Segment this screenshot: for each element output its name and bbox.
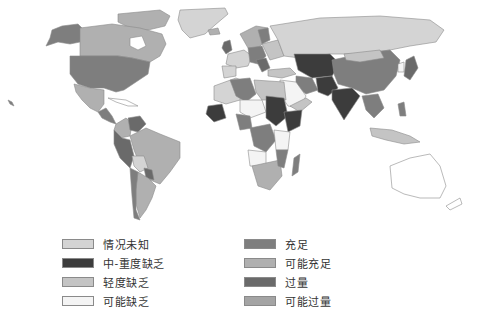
legend-item-adequate: 充足	[244, 234, 331, 253]
region-ethiopia	[284, 110, 302, 132]
legend-left: 情况未知 中-重度缺乏 轻度缺乏 可能缺乏	[62, 234, 165, 310]
region-new-zealand	[446, 198, 462, 210]
legend-swatch	[62, 239, 94, 249]
legend-label: 中-重度缺乏	[103, 255, 165, 271]
region-caribbean	[108, 98, 138, 106]
region-sudan	[266, 96, 288, 126]
legend-label: 可能缺乏	[103, 293, 149, 309]
legend-label: 可能过量	[285, 293, 331, 309]
region-iberia	[222, 66, 236, 78]
region-russia	[270, 16, 444, 58]
region-central-america	[98, 108, 116, 124]
region-turkey	[268, 68, 296, 78]
region-hawaii	[8, 100, 14, 106]
legend-item-moderate-severe-deficiency: 中-重度缺乏	[62, 253, 165, 272]
world-map	[0, 0, 480, 222]
legend-label: 情况未知	[103, 236, 149, 252]
legend-right: 充足 可能充足 过量 可能过量	[244, 234, 331, 310]
region-western-europe	[226, 50, 252, 68]
legend-swatch	[62, 296, 94, 306]
region-east-africa	[274, 130, 290, 150]
legend-item-possibly-excessive: 可能过量	[244, 291, 331, 310]
legend-swatch	[244, 296, 276, 306]
legend-item-possibly-adequate: 可能充足	[244, 253, 331, 272]
region-greenland	[178, 8, 228, 38]
region-mozambique	[276, 150, 288, 168]
region-west-africa	[206, 104, 226, 122]
region-madagascar	[292, 154, 300, 176]
region-central-africa	[250, 124, 276, 152]
legend-item-excessive: 过量	[244, 272, 331, 291]
legend-item-unknown: 情况未知	[62, 234, 165, 253]
region-japan	[404, 56, 418, 80]
legend-label: 充足	[285, 236, 308, 252]
legend-swatch	[62, 277, 94, 287]
legend-label: 轻度缺乏	[103, 274, 149, 290]
legend-item-possible-deficiency: 可能缺乏	[62, 291, 165, 310]
legend-label: 过量	[285, 274, 308, 290]
legend-swatch	[244, 277, 276, 287]
legend-swatch	[244, 258, 276, 268]
legend-item-mild-deficiency: 轻度缺乏	[62, 272, 165, 291]
region-alaska	[46, 24, 82, 46]
legend-label: 可能充足	[285, 255, 331, 271]
region-australia	[390, 154, 446, 198]
region-southeast-asia	[362, 94, 384, 118]
region-korea	[398, 62, 404, 72]
region-india	[332, 88, 360, 120]
region-uk	[222, 40, 232, 54]
region-indonesia	[370, 128, 420, 144]
legend-swatch	[244, 239, 276, 249]
legend-swatch	[62, 258, 94, 268]
region-nigeria	[236, 114, 252, 130]
region-philippines	[398, 102, 406, 116]
